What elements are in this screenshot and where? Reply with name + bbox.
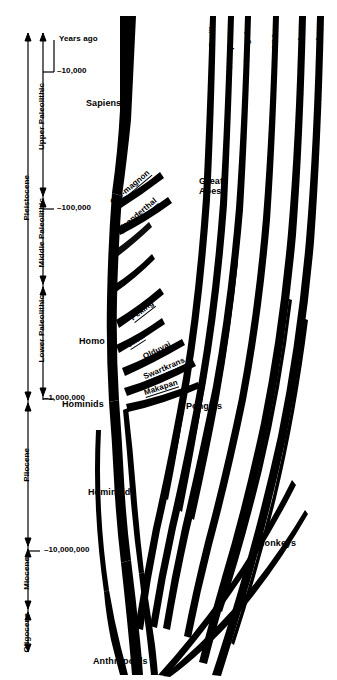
epoch-miocene: Miocene (22, 557, 31, 590)
great-apes-line-2: Apes (199, 186, 221, 196)
node-label-great-apes: Great Apes (199, 176, 223, 197)
figure-canvas: Years ago –10,000 –100,000 –1,000,000 –1… (0, 0, 337, 680)
culture-upper-paleolithic: Upper Paleolithic (37, 83, 46, 150)
node-label-anthropoids: Anthropoids (93, 656, 148, 666)
node-label-pongids: Pongids (186, 401, 222, 411)
tip-label-gorilla: Gorilla (207, 22, 216, 48)
tip-label-old-world-monkeys: Old world monkeys (296, 22, 305, 98)
axis-caption: Years ago (59, 34, 98, 43)
great-apes-line-1: Great (199, 176, 223, 186)
culture-lower-paleolithic: Lower Paleolithic (37, 295, 46, 363)
node-label-hominoids: Hominoids (88, 487, 135, 497)
node-label-hominids: Hominids (62, 399, 104, 409)
epoch-oligocene: Oligocene (22, 613, 31, 653)
epoch-pliocene: Pliocene (22, 448, 31, 482)
node-label-homo: Homo (79, 336, 105, 346)
axis-tick-10m: –10,000,000 (44, 545, 90, 554)
tip-label-new-world-monkeys: New world monkeys (314, 22, 323, 101)
epoch-pleistocene: Pleistocene (22, 175, 31, 221)
axis-tick-100k: –100,000 (57, 203, 91, 212)
node-label-monkeys: Monkeys (257, 538, 296, 548)
node-label-sapiens: Sapiens (86, 98, 121, 108)
tip-label-gibbon: Gibbon (270, 22, 279, 51)
tip-label-chimpanzee: Chimpanzee (225, 22, 234, 70)
tip-label-orangutan: Orangutan (242, 22, 251, 63)
axis-tick-10k: –10,000 (57, 66, 87, 75)
culture-middle-paleolithic: Middle Paleolithic (37, 198, 46, 267)
